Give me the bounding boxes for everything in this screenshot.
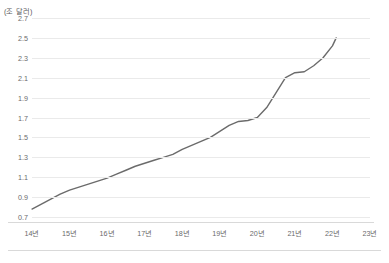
x-axis-tick-label: 15년 <box>62 228 77 238</box>
y-axis-tick-label: 1.7 <box>18 113 28 122</box>
y-axis-tick-label: 2.3 <box>18 53 28 62</box>
y-axis-tick-label: 2.5 <box>18 33 28 42</box>
y-axis-tick-label: 0.9 <box>18 193 28 202</box>
y-axis-ticks: 2.72.52.32.11.91.71.51.31.10.90.7 <box>32 18 370 217</box>
y-axis-tick-label: 1.5 <box>18 133 28 142</box>
y-axis-tick-label: 2.1 <box>18 73 28 82</box>
x-axis-tick-label: 14년 <box>25 228 40 238</box>
x-axis-tick-label: 21년 <box>287 228 302 238</box>
x-axis-tick-label: 20년 <box>250 228 265 238</box>
y-axis-tick-label: 1.1 <box>18 173 28 182</box>
y-axis-tick-label: 1.9 <box>18 93 28 102</box>
x-axis-tick-label: 19년 <box>212 228 227 238</box>
gridline <box>32 217 370 218</box>
x-axis-tick-label: 22년 <box>325 228 340 238</box>
x-axis-tick-label: 18년 <box>175 228 190 238</box>
chart-figure: (조 달러) 2.72.52.32.11.91.71.51.31.10.90.7… <box>0 0 389 263</box>
x-axis-ticks: 14년15년16년17년18년19년20년21년22년23년 <box>32 228 370 240</box>
footer-divider <box>8 250 381 251</box>
y-axis-tick-label: 1.3 <box>18 153 28 162</box>
x-axis-line <box>8 222 374 223</box>
x-axis-tick-label: 23년 <box>363 228 378 238</box>
x-axis-tick-label: 16년 <box>100 228 115 238</box>
y-axis-tick-label: 2.7 <box>18 14 28 23</box>
x-axis-tick-label: 17년 <box>137 228 152 238</box>
y-axis-tick-label: 0.7 <box>18 213 28 222</box>
